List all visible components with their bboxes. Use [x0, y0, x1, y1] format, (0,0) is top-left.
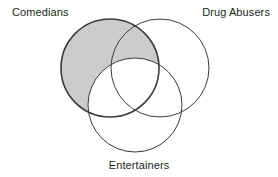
set-label-comedians: Comedians — [12, 6, 69, 19]
shaded-region-comedians-minus-entertainers — [0, 0, 278, 177]
set-label-drug-abusers: Drug Abusers — [202, 6, 270, 19]
set-label-entertainers: Entertainers — [0, 159, 278, 172]
venn-diagram-figure: Comedians Drug Abusers Entertainers — [0, 0, 278, 177]
venn-diagram-canvas — [0, 0, 278, 177]
